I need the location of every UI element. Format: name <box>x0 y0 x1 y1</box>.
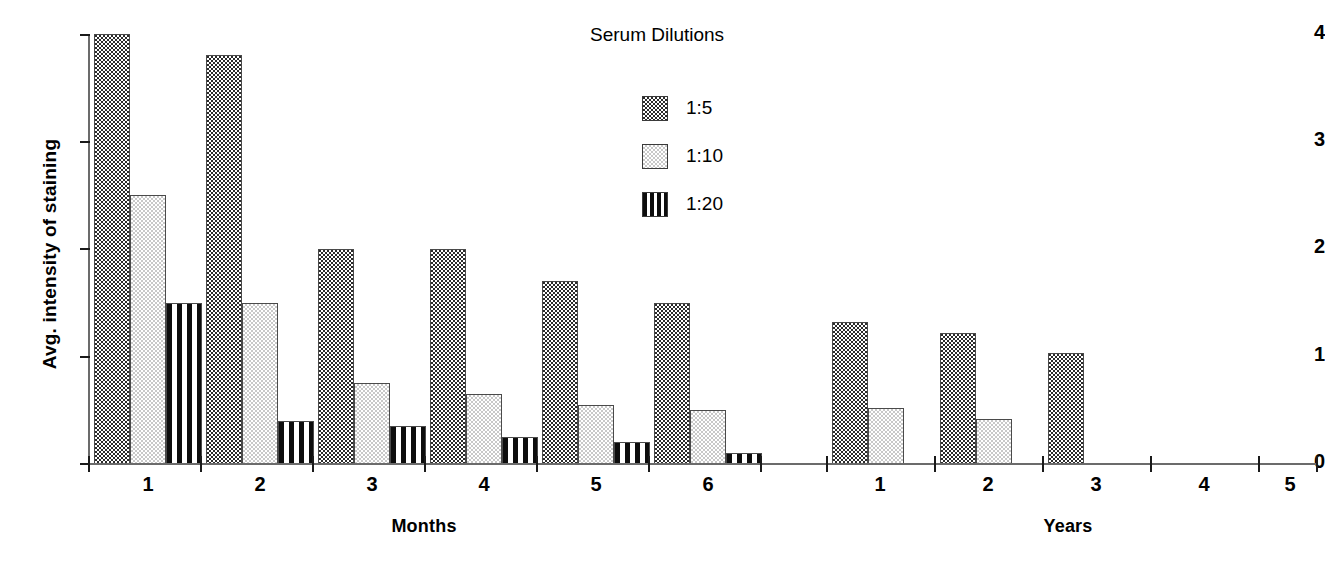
bar-month-4-dilution-1-10 <box>466 394 502 464</box>
x-tick-years-3 <box>1150 456 1152 472</box>
bar-month-2-dilution-1-20 <box>278 421 314 464</box>
legend-label-1-10: 1:10 <box>686 145 723 167</box>
x-label-month-3: 3 <box>352 474 392 494</box>
chart-figure: Avg. intensity of staining 4 3 2 1 0 <box>0 0 1325 569</box>
x-tick-months-2 <box>312 456 314 472</box>
x-tick-years-1 <box>934 456 936 472</box>
legend: Serum Dilutions 1:5 1:10 1:20 <box>590 24 890 224</box>
bar-month-2-dilution-1-5 <box>206 55 242 464</box>
x-label-year-5: 5 <box>1270 474 1310 494</box>
bar-year-2-dilution-1-5 <box>940 333 976 464</box>
bar-month-3-dilution-1-5 <box>318 249 354 464</box>
bar-year-1-dilution-1-5 <box>832 322 868 464</box>
x-tick-years-2 <box>1042 456 1044 472</box>
bar-month-1-dilution-1-10 <box>130 195 166 464</box>
legend-swatch-vertical-stripes-icon <box>642 192 668 217</box>
bar-year-1-dilution-1-10 <box>868 408 904 464</box>
x-label-month-1: 1 <box>128 474 168 494</box>
bar-month-4-dilution-1-20 <box>502 437 538 464</box>
legend-swatch-dark-checker-icon <box>642 96 668 121</box>
bar-month-3-dilution-1-10 <box>354 383 390 464</box>
bar-month-6-dilution-1-10 <box>690 410 726 464</box>
x-label-year-4: 4 <box>1184 474 1224 494</box>
x-tick-years-0 <box>826 456 828 472</box>
bar-month-2-dilution-1-10 <box>242 303 278 464</box>
x-axis-line <box>88 463 1318 465</box>
x-label-month-6: 6 <box>688 474 728 494</box>
legend-swatch-light-checker-icon <box>642 144 668 169</box>
bar-month-3-dilution-1-20 <box>390 426 426 464</box>
x-label-year-1: 1 <box>860 474 900 494</box>
legend-title: Serum Dilutions <box>590 24 724 46</box>
x-tick-months-6 <box>760 456 762 472</box>
bar-year-3-dilution-1-5 <box>1048 353 1084 464</box>
x-label-month-4: 4 <box>464 474 504 494</box>
x-tick-months-0 <box>88 456 90 472</box>
x-tick-months-3 <box>424 456 426 472</box>
bar-month-4-dilution-1-5 <box>430 249 466 464</box>
x-axis-title-months: Months <box>324 516 524 537</box>
bar-year-2-dilution-1-10 <box>976 419 1012 464</box>
x-axis-title-years: Years <box>968 516 1168 537</box>
x-tick-months-4 <box>536 456 538 472</box>
bar-month-1-dilution-1-20 <box>166 303 202 464</box>
x-label-month-5: 5 <box>576 474 616 494</box>
legend-label-1-5: 1:5 <box>686 97 712 119</box>
bar-month-5-dilution-1-5 <box>542 281 578 464</box>
x-tick-years-4 <box>1258 456 1260 472</box>
x-label-year-3: 3 <box>1076 474 1116 494</box>
bar-month-6-dilution-1-5 <box>654 303 690 464</box>
x-tick-months-5 <box>648 456 650 472</box>
bar-month-5-dilution-1-10 <box>578 405 614 464</box>
bar-month-1-dilution-1-5 <box>94 34 130 464</box>
x-tick-months-1 <box>200 456 202 472</box>
x-label-year-2: 2 <box>968 474 1008 494</box>
x-tick-years-5 <box>1316 456 1318 472</box>
legend-label-1-20: 1:20 <box>686 193 723 215</box>
bar-month-5-dilution-1-20 <box>614 442 650 464</box>
x-label-month-2: 2 <box>240 474 280 494</box>
